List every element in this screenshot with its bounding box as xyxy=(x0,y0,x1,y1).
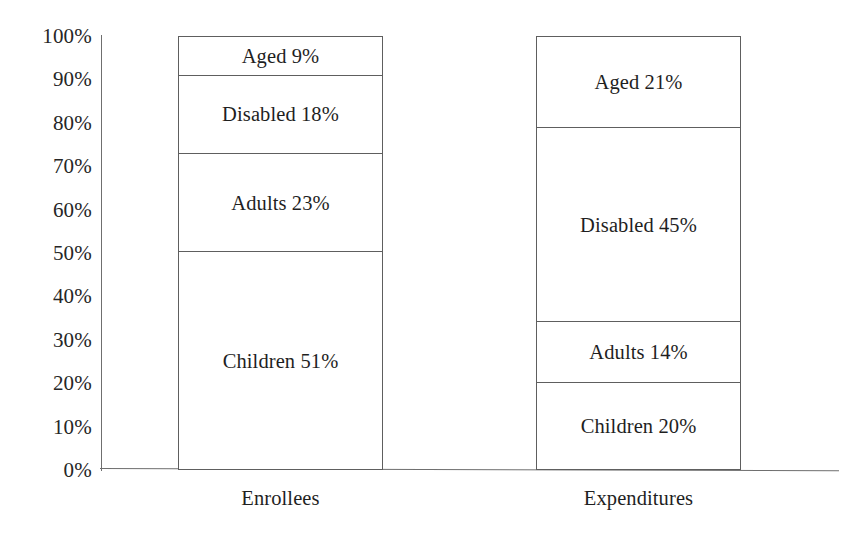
segment-label: Children 20% xyxy=(581,415,697,437)
plot-area: Aged 9%Disabled 18%Adults 23%Children 51… xyxy=(0,36,844,470)
segment-label: Aged 9% xyxy=(242,45,320,67)
segment-label: Adults 14% xyxy=(589,341,687,363)
stacked-bar-chart: 100%90%80%70%60%50%40%30%20%10%0% Aged 9… xyxy=(0,0,844,534)
bar-expenditures: Aged 21%Disabled 45%Adults 14%Children 2… xyxy=(536,36,741,470)
bar-segment-enrollees-children: Children 51% xyxy=(179,251,382,470)
bar-segment-enrollees-adults: Adults 23% xyxy=(179,153,382,252)
bar-segment-expenditures-adults: Adults 14% xyxy=(537,321,740,382)
segment-label: Adults 23% xyxy=(231,192,329,214)
category-label-enrollees: Enrollees xyxy=(178,487,383,509)
segment-label: Aged 21% xyxy=(595,71,683,93)
segment-label: Disabled 18% xyxy=(222,103,339,125)
segment-label: Disabled 45% xyxy=(580,214,697,236)
category-label-expenditures: Expenditures xyxy=(536,487,741,509)
bar-segment-expenditures-children: Children 20% xyxy=(537,382,740,470)
bar-segment-enrollees-aged: Aged 9% xyxy=(179,36,382,75)
bar-enrollees: Aged 9%Disabled 18%Adults 23%Children 51… xyxy=(178,36,383,470)
segment-label: Children 51% xyxy=(223,350,339,372)
bar-segment-enrollees-disabled: Disabled 18% xyxy=(179,75,382,152)
bar-segment-expenditures-disabled: Disabled 45% xyxy=(537,127,740,321)
bar-segment-expenditures-aged: Aged 21% xyxy=(537,36,740,127)
